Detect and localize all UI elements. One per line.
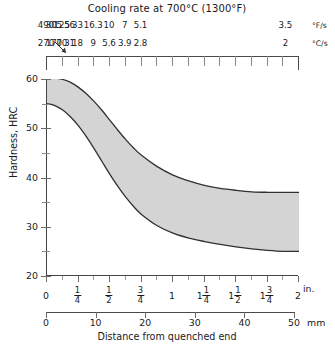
cooling-rate-ruler [46,56,298,70]
cooling-ruler-edge [298,56,299,70]
x-tick-label-inches: 114 [197,284,210,304]
x-tick-inches [78,276,79,282]
y-tick-minor [42,153,50,154]
y-tick-major [41,227,51,228]
hardenability-chart: Cooling rate at 700°C (1300°F) 490305125… [0,0,335,347]
cooling-rate-value-f: 5.1 [134,21,148,30]
y-axis-title: Hardness, HRC [8,107,19,178]
x-axis-title: Distance from quenched end [98,331,237,342]
x-tick-minor-inches [282,276,283,280]
x-tick-minor-inches [125,276,126,280]
cooling-ruler-tick [282,56,283,66]
cooling-ruler-tick [156,56,157,66]
chart-title: Cooling rate at 700°C (1300°F) [88,4,247,14]
y-tick-label: 20 [26,271,38,280]
cooling-ruler-tick [188,56,189,66]
cooling-ruler-tick [78,56,79,66]
plot-area [46,79,298,276]
x-unit-inches-label: in. [303,284,315,293]
cooling-rate-value-c: 2.8 [134,39,148,48]
x-tick-label-inches: 112 [228,284,241,304]
x-tick-label-inches: 34 [137,284,144,304]
cooling-rate-value-c: 9 [91,39,96,48]
unit-label-fahrenheit: °F/s [312,22,327,30]
x-tick-inches [204,276,205,282]
x-tick-inches [46,276,47,282]
cooling-ruler-tick [109,56,110,66]
cooling-ruler-tick [141,56,142,66]
y-tick-major [41,178,51,179]
x-tick-label-mm: 30 [189,318,201,327]
x-tick-minor-inches [188,276,189,280]
cooling-rate-value-c: 18 [72,39,83,48]
cooling-ruler-tick [235,56,236,66]
y-tick-major [41,79,51,80]
cooling-rate-value-c: 5.6 [102,39,116,48]
unit-label-celsius: °C/s [312,40,328,48]
cooling-ruler-tick [93,56,94,66]
x-tick-inches [172,276,173,282]
cooling-ruler-tick [251,56,252,66]
x-tick-minor-inches [251,276,252,280]
cooling-rate-value-c: 2 [283,39,288,48]
hardenability-band-fill [47,79,299,251]
cooling-rate-value-f: 7 [122,21,127,30]
x-tick-label-mm: 0 [43,318,49,327]
y-tick-label: 30 [26,222,38,231]
cooling-ruler-tick [62,56,63,66]
x-tick-inches [109,276,110,282]
x-tick-label-mm: 20 [139,318,151,327]
cooling-ruler-tick [172,56,173,66]
hardenability-band-plot [47,79,299,276]
x-unit-mm-label: mm [307,318,325,327]
y-tick-label: 60 [26,74,38,83]
x-tick-label-inches: 1 [169,284,175,303]
y-tick-minor [42,251,50,252]
cooling-ruler-tick [204,56,205,66]
x-tick-minor-inches [156,276,157,280]
x-tick-inches [235,276,236,282]
cooling-ruler-tick [267,56,268,66]
x-tick-label-mm: 50 [288,318,300,327]
x-tick-inches [267,276,268,282]
x-tick-inches [141,276,142,282]
x-tick-minor-inches [62,276,63,280]
x-tick-label-inches: 134 [260,284,273,304]
mm-ruler [46,312,295,320]
x-tick-minor-inches [93,276,94,280]
x-tick-label-inches: 2 [295,284,301,303]
y-tick-major [41,128,51,129]
y-tick-minor [42,202,50,203]
x-tick-inches [298,276,299,282]
cooling-rate-value-f: 16.3 [84,21,103,30]
cooling-ruler-tick [125,56,126,66]
cooling-ruler-edge [46,56,47,70]
x-tick-label-mm: 10 [90,318,102,327]
y-tick-minor [42,104,50,105]
x-tick-label-inches: 12 [105,284,112,304]
cooling-rate-value-c: 3.9 [118,39,132,48]
x-tick-minor-inches [219,276,220,280]
y-tick-label: 50 [26,123,38,132]
cooling-rate-value-f: 3.5 [279,21,293,30]
x-tick-label-inches: 14 [74,284,81,304]
x-tick-label-mm: 40 [238,318,250,327]
cooling-ruler-tick [219,56,220,66]
x-tick-label-inches: 0 [43,284,49,303]
cooling-rate-value-f: 10 [104,21,115,30]
cooling-rate-value-f: 33 [72,21,83,30]
y-tick-label: 40 [26,173,38,182]
